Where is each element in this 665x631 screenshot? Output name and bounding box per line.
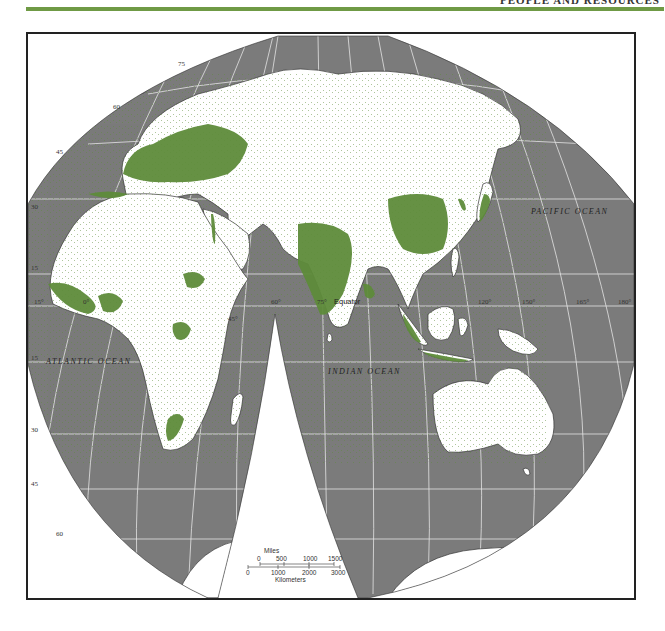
svg-text:Miles: Miles: [264, 547, 280, 554]
svg-text:30: 30: [31, 203, 39, 211]
svg-text:500: 500: [276, 555, 287, 562]
world-population-map: 75 60 45 30 15 15 30 45 60 15° 0° 45° 60…: [26, 32, 636, 600]
map-svg: 75 60 45 30 15 15 30 45 60 15° 0° 45° 60…: [28, 34, 634, 598]
svg-text:60: 60: [56, 530, 64, 538]
svg-text:75: 75: [178, 60, 186, 68]
svg-text:45°: 45°: [228, 315, 238, 323]
svg-text:120°: 120°: [478, 298, 492, 306]
scale-bar: Miles 0 500 1000 1500 0 1000 2000 3000 K…: [246, 547, 346, 583]
atlantic-ocean-label: ATLANTIC OCEAN: [45, 357, 131, 366]
svg-text:30: 30: [31, 426, 39, 434]
svg-text:45: 45: [56, 148, 64, 156]
page-header-title: PEOPLE AND RESOURCES: [500, 0, 660, 6]
svg-text:60: 60: [113, 103, 121, 111]
svg-text:1000: 1000: [303, 555, 318, 562]
svg-text:180°: 180°: [618, 298, 632, 306]
svg-text:45: 45: [31, 480, 39, 488]
ocean-area: [28, 34, 634, 598]
svg-text:2000: 2000: [302, 569, 317, 576]
equator-label: Equator: [334, 297, 361, 306]
svg-text:15°: 15°: [34, 298, 44, 306]
svg-text:15: 15: [31, 264, 39, 272]
header-rule: [26, 7, 664, 11]
svg-text:15: 15: [31, 354, 39, 362]
population-dots: [28, 74, 548, 464]
svg-text:60°: 60°: [271, 298, 281, 306]
svg-text:0°: 0°: [83, 298, 90, 306]
svg-text:1000: 1000: [271, 569, 286, 576]
svg-text:1500: 1500: [328, 555, 343, 562]
svg-text:3000: 3000: [331, 569, 346, 576]
svg-text:75°: 75°: [317, 298, 327, 306]
svg-text:150°: 150°: [522, 298, 536, 306]
svg-text:0: 0: [246, 569, 250, 576]
indian-ocean-label: INDIAN OCEAN: [327, 367, 401, 376]
svg-text:Kilometers: Kilometers: [275, 576, 306, 583]
svg-text:165°: 165°: [576, 298, 590, 306]
svg-text:0: 0: [257, 555, 261, 562]
pacific-ocean-label: PACIFIC OCEAN: [530, 207, 608, 216]
